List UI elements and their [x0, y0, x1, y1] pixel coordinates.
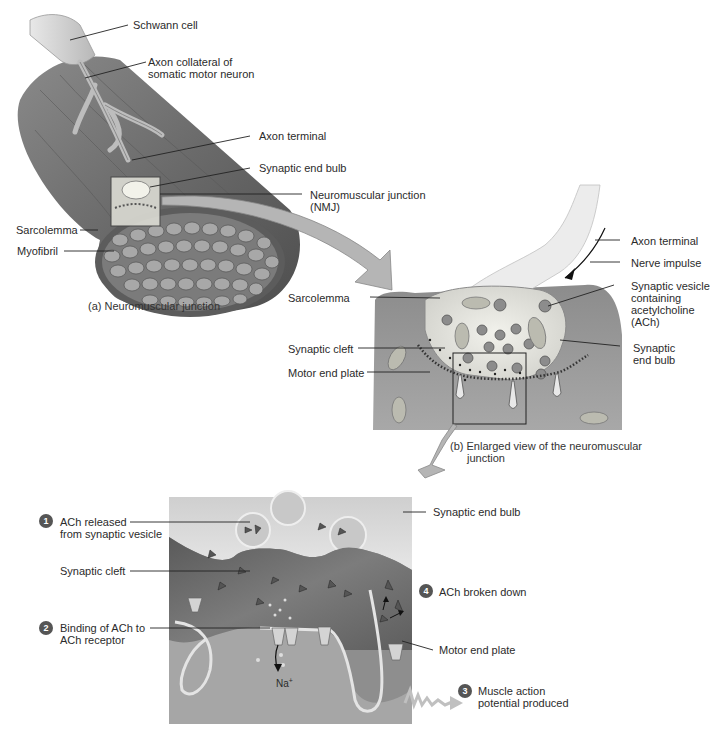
label-axon-collateral-1: Axon collateral of	[148, 56, 232, 68]
label-axon-collateral-2: somatic motor neuron	[148, 68, 254, 80]
label-nerve-impulse: Nerve impulse	[631, 257, 701, 269]
label-synaptic-vesicle-3: acetylcholine	[631, 304, 695, 316]
label-schwann-cell: Schwann cell	[133, 19, 198, 31]
step-badge-3: 3	[458, 684, 472, 698]
step-badge-4: 4	[419, 584, 433, 598]
label-axon-terminal-a: Axon terminal	[259, 130, 326, 142]
enlarged-junction-illustration	[373, 185, 622, 430]
step-1-text-1: ACh released	[60, 516, 127, 528]
step-2-text-1: Binding of ACh to	[60, 622, 145, 634]
label-motor-end-plate-c: Motor end plate	[439, 644, 515, 656]
label-synaptic-vesicle-2: containing	[631, 292, 681, 304]
label-myofibril: Myofibril	[17, 245, 58, 257]
caption-panel-b-1: (b) Enlarged view of the neuromuscular	[450, 440, 642, 452]
label-synaptic-end-bulb-c: Synaptic end bulb	[433, 506, 520, 518]
action-potential-arrow	[405, 690, 463, 710]
label-na-ion: Na+	[276, 675, 293, 690]
label-sarcolemma-b: Sarcolemma	[288, 292, 350, 304]
label-axon-terminal-b: Axon terminal	[631, 235, 698, 247]
step-3-text-2: potential produced	[478, 697, 569, 709]
label-synaptic-cleft-c: Synaptic cleft	[60, 565, 125, 577]
caption-panel-a: (a) Neuromuscular junction	[88, 300, 220, 312]
step-3-text-1: Muscle action	[478, 685, 545, 697]
label-nmj-1: Neuromuscular junction	[310, 189, 426, 201]
caption-panel-b-2: junction	[467, 452, 505, 464]
label-synaptic-cleft-b: Synaptic cleft	[288, 343, 353, 355]
label-synaptic-end-bulb-b-2: end bulb	[633, 354, 675, 366]
label-synaptic-vesicle-4: (ACh)	[631, 316, 660, 328]
label-nmj-2: (NMJ)	[310, 201, 340, 213]
label-motor-end-plate-b: Motor end plate	[288, 367, 364, 379]
label-synaptic-end-bulb-b-1: Synaptic	[633, 342, 675, 354]
step-1-text-2: from synaptic vesicle	[60, 528, 162, 540]
label-sarcolemma-a: Sarcolemma	[16, 224, 78, 236]
label-synaptic-vesicle-1: Synaptic vesicle	[631, 280, 710, 292]
step-4-text-1: ACh broken down	[439, 586, 526, 598]
step-2-text-2: ACh receptor	[60, 634, 125, 646]
label-synaptic-end-bulb-a: Synaptic end bulb	[259, 162, 346, 174]
step-badge-2: 2	[39, 621, 53, 635]
step-badge-1: 1	[39, 514, 53, 528]
